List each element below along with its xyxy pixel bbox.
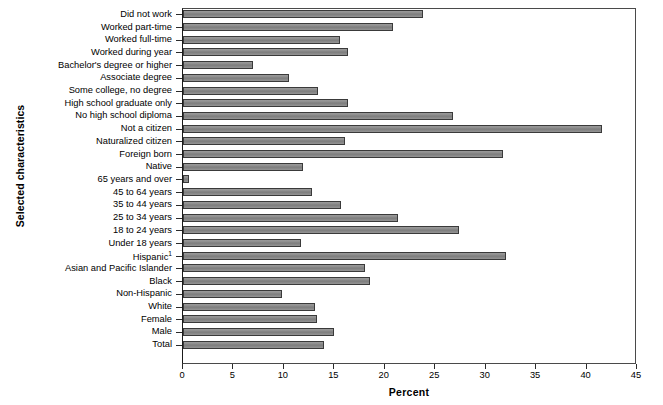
bar-container xyxy=(183,48,348,56)
x-axis-tick xyxy=(333,364,334,369)
bar xyxy=(183,61,253,69)
x-axis-tick xyxy=(232,364,233,369)
bar-container xyxy=(183,214,398,222)
bar-container xyxy=(183,137,345,145)
bar-container xyxy=(183,303,315,311)
x-axis-tick-label: 45 xyxy=(631,370,641,380)
x-axis-tick-label: 15 xyxy=(328,370,338,380)
y-axis-tick xyxy=(176,154,182,155)
x-axis-tick-label: 0 xyxy=(179,370,184,380)
bar xyxy=(183,239,301,247)
category-label: Naturalized citizen xyxy=(0,136,172,147)
y-axis-tick xyxy=(176,141,182,142)
y-axis-tick xyxy=(176,256,182,257)
x-axis-tick xyxy=(283,364,284,369)
bar-container xyxy=(183,264,365,272)
bar-chart: Selected characteristics Did not workWor… xyxy=(0,0,663,405)
x-axis-title: Percent xyxy=(182,386,636,398)
bar-container xyxy=(183,112,453,120)
category-label: Black xyxy=(0,276,172,287)
x-axis-tick-label: 40 xyxy=(580,370,590,380)
y-axis-tick xyxy=(176,179,182,180)
category-label: Associate degree xyxy=(0,72,172,83)
y-axis-tick xyxy=(176,91,182,92)
x-axis-tick-label: 25 xyxy=(429,370,439,380)
category-label: Asian and Pacific Islander xyxy=(0,263,172,274)
x-axis-tick-label: 10 xyxy=(278,370,288,380)
y-axis-tick xyxy=(176,27,182,28)
category-label: Some college, no degree xyxy=(0,85,172,96)
bar xyxy=(183,188,312,196)
category-label: Female xyxy=(0,314,172,325)
category-label: Worked part-time xyxy=(0,22,172,33)
bar xyxy=(183,10,423,18)
bar-container xyxy=(183,74,289,82)
bar-row: 65 years and over xyxy=(0,173,663,186)
bar-container xyxy=(183,150,503,158)
bar-row: Native xyxy=(0,160,663,173)
bar xyxy=(183,125,602,133)
y-axis-tick xyxy=(176,243,182,244)
bar xyxy=(183,150,503,158)
bar xyxy=(183,214,398,222)
y-axis-tick xyxy=(176,268,182,269)
bar-container xyxy=(183,87,318,95)
category-label: Total xyxy=(0,339,172,350)
bar xyxy=(183,99,348,107)
bar-row: Did not work xyxy=(0,8,663,21)
bar-row: 25 to 34 years xyxy=(0,211,663,224)
bar xyxy=(183,87,318,95)
category-label: High school graduate only xyxy=(0,98,172,109)
category-label: Under 18 years xyxy=(0,238,172,249)
category-label: 18 to 24 years xyxy=(0,225,172,236)
bar-row: Non-Hispanic xyxy=(0,287,663,300)
bar-container xyxy=(183,239,301,247)
x-axis-tick xyxy=(434,364,435,369)
bar-row: Female xyxy=(0,313,663,326)
category-label: Not a citizen xyxy=(0,123,172,134)
bar-row: Worked part-time xyxy=(0,21,663,34)
bar-row: 45 to 64 years xyxy=(0,186,663,199)
y-axis-tick xyxy=(176,103,182,104)
bar-row: Foreign born xyxy=(0,148,663,161)
y-axis-tick xyxy=(176,129,182,130)
y-axis-tick xyxy=(176,40,182,41)
bar-row: Male xyxy=(0,326,663,339)
category-label: Worked during year xyxy=(0,47,172,58)
bar-container xyxy=(183,99,348,107)
y-axis-tick xyxy=(176,319,182,320)
bar xyxy=(183,264,365,272)
y-axis-tick xyxy=(176,345,182,346)
y-axis-tick xyxy=(176,52,182,53)
bar-container xyxy=(183,277,370,285)
bar xyxy=(183,277,370,285)
category-label: Male xyxy=(0,326,172,337)
bar-row: Naturalized citizen xyxy=(0,135,663,148)
x-axis-tick xyxy=(636,364,637,369)
bar xyxy=(183,303,315,311)
bar-container xyxy=(183,188,312,196)
category-label: Worked full-time xyxy=(0,34,172,45)
category-label: 65 years and over xyxy=(0,174,172,185)
category-label: Non-Hispanic xyxy=(0,288,172,299)
bar xyxy=(183,290,282,298)
bar-row: Not a citizen xyxy=(0,122,663,135)
bar xyxy=(183,74,289,82)
category-label: Native xyxy=(0,161,172,172)
bar-container xyxy=(183,36,340,44)
bar-container xyxy=(183,315,317,323)
y-axis-tick xyxy=(176,14,182,15)
x-axis-tick xyxy=(485,364,486,369)
x-axis-tick xyxy=(182,364,183,369)
bar xyxy=(183,226,459,234)
category-label: Hispanic1 xyxy=(0,248,172,263)
y-axis-tick xyxy=(176,294,182,295)
x-axis-tick-label: 20 xyxy=(379,370,389,380)
bar-container xyxy=(183,163,303,171)
bar-row: 35 to 44 years xyxy=(0,199,663,212)
bar-container xyxy=(183,201,341,209)
bar xyxy=(183,163,303,171)
bar-row: Asian and Pacific Islander xyxy=(0,262,663,275)
bar-container xyxy=(183,328,334,336)
bar-row: Associate degree xyxy=(0,72,663,85)
